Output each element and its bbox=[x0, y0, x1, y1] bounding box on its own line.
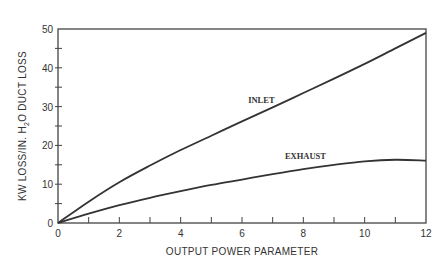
x-tick-label: 4 bbox=[178, 228, 184, 239]
x-tick-label: 10 bbox=[359, 228, 371, 239]
y-tick-label: 30 bbox=[42, 102, 54, 113]
line-chart: 02468101201020304050 INLET EXHAUST OUTPU… bbox=[0, 0, 446, 271]
data-series bbox=[58, 33, 426, 223]
plot-frame bbox=[58, 29, 426, 223]
series-line-inlet bbox=[58, 33, 426, 223]
y-tick-label: 50 bbox=[42, 24, 54, 35]
x-tick-label: 0 bbox=[55, 228, 61, 239]
y-tick-label: 10 bbox=[42, 179, 54, 190]
x-tick-label: 6 bbox=[239, 228, 245, 239]
x-axis-title: OUTPUT POWER PARAMETER bbox=[166, 246, 318, 257]
y-axis-title: KW LOSS/IN. H2O DUCT LOSS bbox=[17, 51, 30, 201]
series-line-exhaust bbox=[58, 160, 426, 223]
tick-labels: 02468101201020304050 bbox=[42, 24, 432, 239]
x-tick-label: 2 bbox=[117, 228, 123, 239]
y-tick-label: 0 bbox=[47, 218, 53, 229]
y-tick-label: 20 bbox=[42, 140, 54, 151]
plot-border bbox=[58, 29, 426, 223]
inlet-series-label: INLET bbox=[248, 95, 275, 105]
x-tick-label: 8 bbox=[301, 228, 307, 239]
x-tick-label: 12 bbox=[420, 228, 432, 239]
y-tick-label: 40 bbox=[42, 63, 54, 74]
exhaust-series-label: EXHAUST bbox=[285, 151, 326, 161]
